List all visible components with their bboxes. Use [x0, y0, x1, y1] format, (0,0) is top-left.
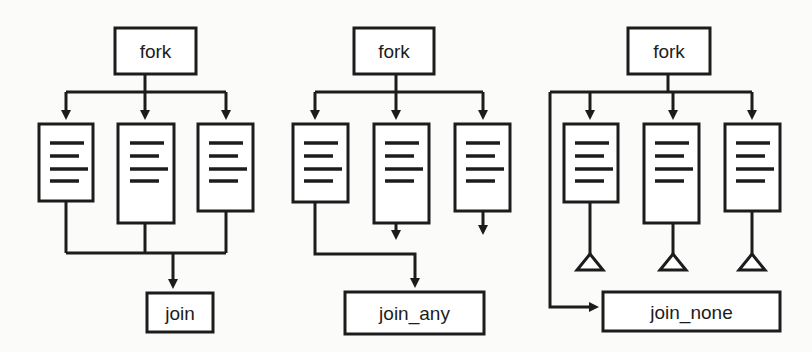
triangle-icon: [660, 254, 686, 270]
process-box: [198, 124, 253, 211]
join-none-label: join_none: [649, 302, 732, 324]
triangle-icon: [739, 254, 765, 270]
process-box: [644, 124, 699, 223]
process-box: [39, 124, 93, 201]
process-box: [455, 124, 510, 211]
panel-join-none: [550, 28, 780, 331]
process-box: [293, 124, 348, 202]
process-box: [374, 124, 429, 223]
process-box: [725, 124, 780, 211]
fork-join-diagram: fork join fork join_any fork join_none: [0, 0, 812, 352]
fork-label: fork: [378, 41, 410, 62]
fork-label: fork: [140, 41, 172, 62]
join-any-label: join_any: [378, 303, 450, 325]
join-label: join: [164, 303, 195, 324]
process-box: [118, 124, 174, 223]
fork-connectors: [550, 74, 752, 115]
triangle-icon: [577, 254, 603, 270]
fork-connectors: [66, 74, 226, 115]
process-box: [564, 124, 618, 202]
panel-join: [39, 28, 253, 332]
panel-join-any: [293, 28, 510, 334]
fork-connectors: [315, 74, 483, 115]
fork-label: fork: [653, 41, 685, 62]
